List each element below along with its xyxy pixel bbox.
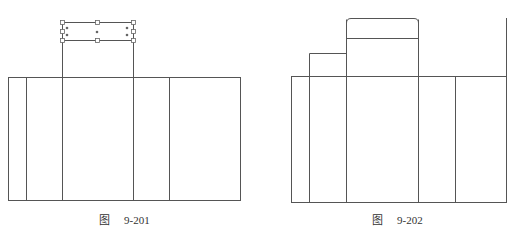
figure-number: 9-202 <box>397 214 423 226</box>
caption-9-201: 图9-201 <box>99 211 150 227</box>
figure-number: 9-201 <box>124 214 150 226</box>
diagram-canvas <box>0 0 515 233</box>
handle-dots <box>66 27 129 37</box>
figure-label: 图 <box>372 214 383 226</box>
figure-9-201-drawing <box>9 23 241 201</box>
figure-label: 图 <box>99 214 110 226</box>
box-outline <box>9 78 241 201</box>
figure-9-202-drawing <box>292 18 507 203</box>
caption-9-202: 图9-202 <box>372 211 423 227</box>
box-outline <box>292 77 507 203</box>
